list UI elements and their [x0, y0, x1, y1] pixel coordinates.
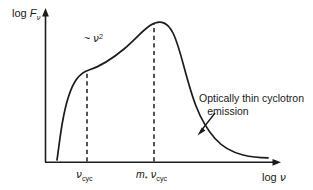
y-axis-arrow-icon — [42, 8, 49, 17]
x-axis-arrow-icon — [273, 159, 282, 166]
tick-label-m-nu-subscript: cyc — [156, 174, 167, 183]
tick-label-m-prefix: m — [136, 168, 145, 180]
tick-label-m-nu-cyc: m* νcyc — [136, 168, 168, 183]
pointer-arrow-head-icon — [198, 128, 206, 136]
annotation-power-law-superscript: 2 — [99, 32, 103, 41]
x-axis-label: log ν — [262, 171, 286, 184]
y-axis-label: log Fν — [12, 7, 41, 22]
cyclotron-spectrum-figure: log Fν log ν νcyc m* νcyc ~ ν2 Optically… — [0, 0, 313, 190]
annotation-optically-thin-line1: Optically thin cyclotron — [199, 92, 304, 104]
x-axis-label-prefix: log — [262, 171, 277, 183]
x-axis — [45, 159, 281, 166]
y-axis-label-subscript: ν — [36, 13, 40, 22]
annotation-optically-thin: Optically thin cyclotron emission — [199, 92, 304, 117]
tick-label-nu-cyc-subscript: cyc — [82, 174, 93, 183]
spectrum-chart: log Fν log ν νcyc m* νcyc ~ ν2 Optically… — [0, 0, 313, 190]
y-axis-label-prefix: log — [12, 7, 27, 19]
annotation-optically-thin-line2: emission — [207, 105, 249, 117]
tick-label-nu-cyc: νcyc — [76, 168, 93, 183]
annotation-power-law: ~ ν2 — [84, 32, 103, 44]
x-axis-label-symbol: ν — [280, 171, 286, 184]
y-axis — [42, 8, 49, 162]
